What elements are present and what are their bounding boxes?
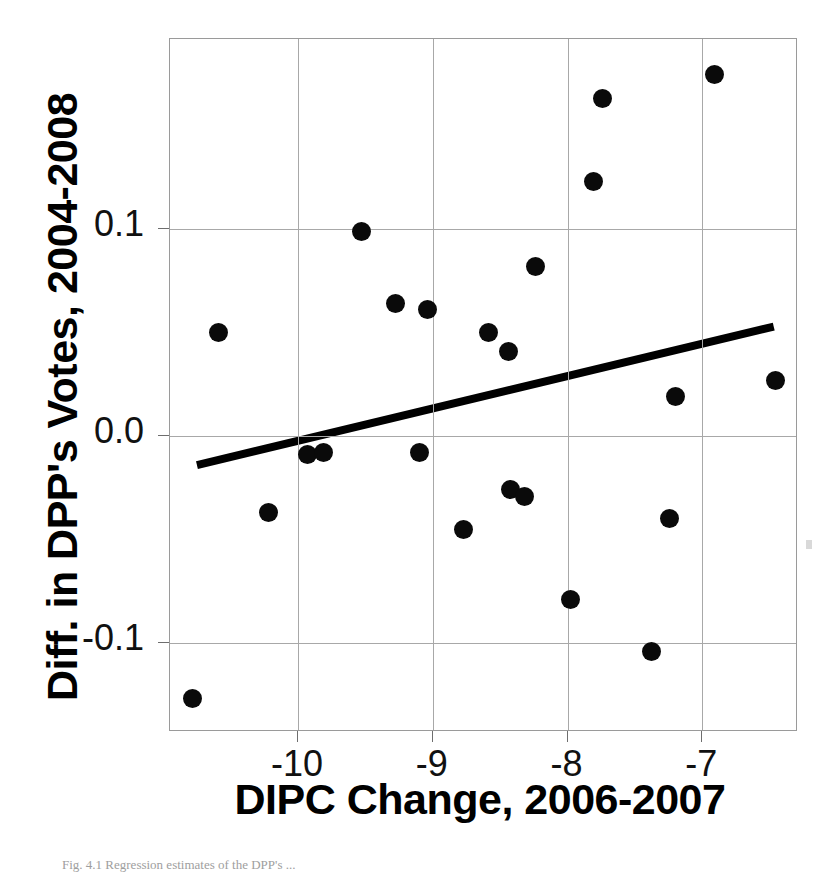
data-point xyxy=(526,257,545,276)
data-point xyxy=(705,65,724,84)
data-point xyxy=(352,222,371,241)
data-point xyxy=(561,590,580,609)
gridline-vertical xyxy=(702,39,703,730)
scatter-plot-figure: Diff. in DPP's Votes, 2004-2008 DIPC Cha… xyxy=(0,0,833,879)
data-point xyxy=(515,487,534,506)
trendline-layer xyxy=(170,39,798,732)
data-point xyxy=(642,642,661,661)
plot-area xyxy=(169,38,797,731)
data-point xyxy=(259,503,278,522)
y-tick-label: -0.1 xyxy=(0,617,144,659)
figure-caption: Fig. 4.1 Regression estimates of the DPP… xyxy=(62,857,295,873)
x-tick-label: -8 xyxy=(507,743,627,785)
gridline-vertical xyxy=(298,39,299,730)
data-point xyxy=(410,443,429,462)
data-point xyxy=(499,342,518,361)
regression-trendline xyxy=(197,327,774,466)
y-tick-label: 0.0 xyxy=(0,410,144,452)
gridline-vertical xyxy=(568,39,569,730)
y-tick-label: 0.1 xyxy=(0,203,144,245)
y-tick-mark xyxy=(158,642,169,643)
y-tick-mark xyxy=(158,435,169,436)
scan-artifact xyxy=(806,540,812,549)
x-tick-label: -10 xyxy=(237,743,357,785)
gridline-horizontal xyxy=(170,436,796,437)
data-point xyxy=(766,371,785,390)
x-tick-label: -9 xyxy=(372,743,492,785)
x-tick-mark xyxy=(297,731,298,742)
y-tick-mark xyxy=(158,228,169,229)
x-tick-mark xyxy=(701,731,702,742)
x-tick-mark xyxy=(432,731,433,742)
data-point xyxy=(584,172,603,191)
x-tick-mark xyxy=(567,731,568,742)
gridline-horizontal xyxy=(170,229,796,230)
data-point xyxy=(386,294,405,313)
gridline-horizontal xyxy=(170,643,796,644)
x-tick-label: -7 xyxy=(641,743,761,785)
gridline-vertical xyxy=(433,39,434,730)
data-point xyxy=(454,520,473,539)
data-point xyxy=(479,323,498,342)
